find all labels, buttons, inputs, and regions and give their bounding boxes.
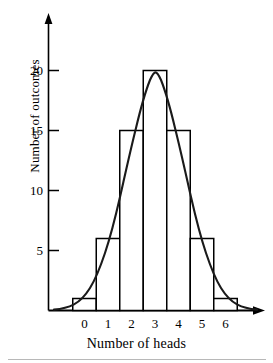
y-axis <box>45 13 53 311</box>
y-tick-label-5: 5 <box>37 243 44 258</box>
bar-4 <box>167 131 191 311</box>
bar-3 <box>143 71 167 311</box>
x-axis-title: Number of heads <box>0 336 273 352</box>
histogram-figure: 20 15 10 5 <box>0 0 273 363</box>
bar-1 <box>96 239 120 311</box>
bar-5 <box>190 239 214 311</box>
x-tick-label-2: 2 <box>128 316 135 331</box>
x-tick-label-6: 6 <box>222 316 229 331</box>
y-axis-ticks <box>49 71 60 251</box>
y-axis-arrowhead <box>45 13 53 24</box>
x-axis-arrowhead <box>253 306 265 315</box>
y-axis-title: Number of outcomes <box>27 31 43 201</box>
x-tick-label-1: 1 <box>105 316 112 331</box>
x-axis-tick-labels: 0 1 2 3 4 5 6 <box>81 316 229 331</box>
x-tick-label-5: 5 <box>199 316 206 331</box>
x-tick-label-0: 0 <box>81 316 88 331</box>
figure-bottom-rule <box>8 359 266 360</box>
x-tick-label-4: 4 <box>175 316 182 331</box>
x-tick-label-3: 3 <box>152 316 159 331</box>
bar-0 <box>73 299 97 311</box>
bar-6 <box>214 299 238 311</box>
bar-2 <box>120 131 144 311</box>
